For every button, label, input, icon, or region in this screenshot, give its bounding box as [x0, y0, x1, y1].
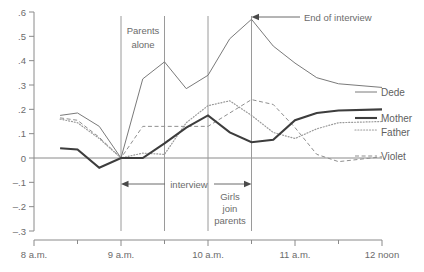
x-tick-label: 12 noon [365, 249, 399, 260]
y-axis-tick-labels: .6 .5 .4 .3 .2 .1 0 –.1 –.2 –.3 [13, 7, 26, 237]
annotation-girls-join-parents: Girls join parents [214, 191, 246, 226]
annotation-girls-line1: Girls [220, 191, 240, 202]
y-tick-label: .2 [18, 104, 26, 115]
line-chart: .6 .5 .4 .3 .2 .1 0 –.1 –.2 –.3 8 [0, 0, 424, 272]
series-line-dede [60, 19, 382, 158]
y-tick-label: 0 [21, 153, 26, 164]
annotation-girls-line3: parents [214, 215, 246, 226]
x-tick-label: 10 a.m. [192, 249, 224, 260]
y-tick-label: .5 [18, 31, 26, 42]
legend-label-violet: Violet [381, 151, 406, 162]
legend-label-mother: Mother [381, 113, 413, 124]
y-tick-label: .6 [18, 7, 26, 18]
y-tick-label: –.2 [13, 201, 26, 212]
annotation-interview-text: interview [170, 179, 208, 190]
annotation-end-of-interview-text: End of interview [304, 12, 372, 23]
y-axis-ticks [29, 12, 34, 231]
series-line-father [60, 101, 382, 158]
y-tick-label: –.3 [13, 226, 26, 237]
x-tick-label: 11 a.m. [280, 249, 311, 260]
y-tick-label: .1 [18, 128, 26, 139]
legend-label-dede: Dede [381, 87, 405, 98]
x-axis-tick-labels: 8 a.m. 9 a.m. 10 a.m. 11 a.m. 12 noon [21, 249, 399, 260]
data-series-group [60, 19, 382, 167]
annotation-interview-arrowhead-left [121, 181, 129, 187]
x-axis-ticks [34, 240, 382, 246]
annotation-end-arrowhead [252, 14, 260, 20]
legend-group: Dede Mother Father Violet [355, 87, 413, 162]
x-tick-label: 9 a.m. [108, 249, 134, 260]
series-line-violet [60, 100, 382, 162]
annotation-girls-line2: join [222, 203, 238, 214]
y-tick-label: .3 [18, 80, 26, 91]
annotation-end-of-interview: End of interview [252, 12, 372, 23]
annotation-interview: interview [121, 179, 252, 190]
annotation-parents-alone-line2: alone [131, 39, 154, 50]
annotation-parents-alone: Parents alone [127, 25, 160, 50]
y-tick-label: –.1 [13, 177, 26, 188]
annotation-parents-alone-line1: Parents [127, 25, 160, 36]
legend-label-father: Father [381, 127, 411, 138]
y-tick-label: .4 [18, 55, 26, 66]
chart-container: .6 .5 .4 .3 .2 .1 0 –.1 –.2 –.3 8 [0, 0, 424, 272]
annotation-interview-arrowhead-right [244, 181, 252, 187]
x-tick-label: 8 a.m. [21, 249, 47, 260]
